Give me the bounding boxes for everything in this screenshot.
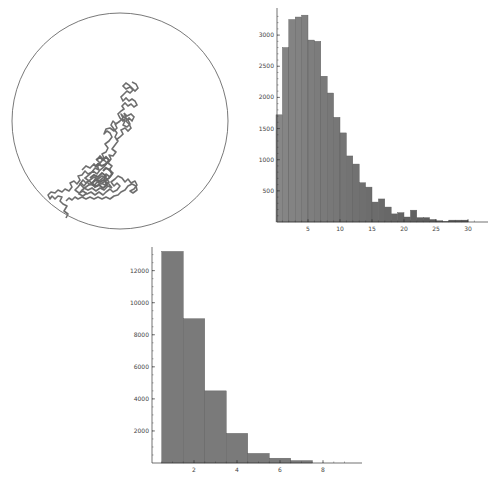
x-tick-label: 25 [432, 225, 440, 232]
histogram-bar [226, 433, 248, 463]
histogram-bar [334, 117, 340, 222]
histogram-bar [295, 17, 301, 222]
histogram-bar [398, 213, 404, 222]
histogram-bar [353, 164, 359, 222]
x-tick-label: 30 [464, 225, 472, 232]
histogram-bar [289, 20, 295, 222]
x-tick-label: 4 [235, 466, 239, 473]
y-tick-label: 2000 [259, 93, 274, 100]
x-tick-label: 2 [192, 466, 196, 473]
histogram-bar [205, 391, 227, 463]
histogram-bar [391, 214, 397, 222]
histogram-bar [366, 187, 372, 222]
histogram-bar [410, 210, 416, 222]
y-tick-label: 12000 [130, 267, 149, 274]
y-tick-label: 8000 [134, 331, 149, 338]
histogram-bar [417, 218, 423, 222]
histogram-top: 5001000150020002500300051015202530 [259, 8, 488, 232]
x-tick-label: 15 [368, 225, 376, 232]
y-tick-label: 1000 [259, 156, 274, 163]
histogram-bar [423, 218, 429, 222]
histogram-bar [340, 133, 346, 222]
y-tick-label: 3000 [259, 31, 274, 38]
histogram-bar [359, 183, 365, 222]
histogram-bar [282, 48, 288, 222]
x-tick-label: 6 [278, 466, 282, 473]
histogram-bar [308, 40, 314, 222]
histogram-bar [314, 41, 320, 222]
histogram-bar [372, 202, 378, 222]
x-tick-label: 8 [321, 466, 325, 473]
y-tick-label: 2500 [259, 62, 274, 69]
histogram-bar [404, 217, 410, 222]
figure-canvas: 5001000150020002500300051015202530 20004… [0, 0, 491, 479]
y-tick-label: 1500 [259, 125, 274, 132]
histogram-bar [378, 199, 384, 222]
histogram-bar [302, 15, 308, 222]
x-tick-label: 20 [400, 225, 408, 232]
y-tick-label: 4000 [134, 395, 149, 402]
y-tick-label: 6000 [134, 363, 149, 370]
x-tick-label: 10 [336, 225, 344, 232]
histogram-bar [346, 156, 352, 222]
histogram-bar [385, 207, 391, 222]
histogram-bar [162, 251, 184, 463]
y-tick-label: 2000 [134, 427, 149, 434]
histogram-bar [183, 319, 205, 463]
histogram-bottom: 200040006000800010000120002468 [130, 247, 362, 473]
random-walk-panel [12, 13, 228, 229]
histogram-bar [327, 93, 333, 222]
histogram-bar [321, 76, 327, 222]
histogram-bar [430, 220, 436, 222]
x-tick-label: 5 [306, 225, 310, 232]
y-tick-label: 500 [263, 187, 275, 194]
y-tick-label: 10000 [130, 299, 149, 306]
